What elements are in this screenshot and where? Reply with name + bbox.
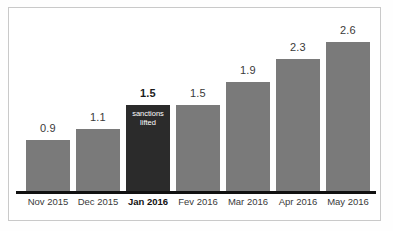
bar — [326, 42, 370, 192]
bar-value-label: 1.9 — [220, 64, 276, 76]
x-axis-baseline — [16, 191, 376, 194]
bar — [276, 59, 320, 192]
bar-value-label: 1.1 — [70, 111, 126, 123]
bar — [76, 129, 120, 192]
bar-annotation-line: sanctions — [126, 109, 170, 118]
bar-value-label: 0.9 — [20, 122, 76, 134]
chart-page: 0.91.1sanctionslifted1.51.51.92.32.6 Nov… — [0, 0, 393, 231]
bar-value-label: 1.5 — [170, 87, 226, 99]
bar-annotation-line: lifted — [126, 118, 170, 127]
bar — [26, 140, 70, 192]
category-label: May 2016 — [318, 196, 378, 207]
bar — [226, 82, 270, 192]
bar-value-label: 2.6 — [320, 24, 376, 36]
bar — [176, 105, 220, 192]
bar-chart-plot: 0.91.1sanctionslifted1.51.51.92.32.6 Nov… — [0, 0, 393, 231]
bar-value-label: 2.3 — [270, 41, 326, 53]
bar-annotation: sanctionslifted — [126, 109, 170, 127]
bar-value-label: 1.5 — [120, 87, 176, 99]
bar-highlighted: sanctionslifted — [126, 105, 170, 192]
